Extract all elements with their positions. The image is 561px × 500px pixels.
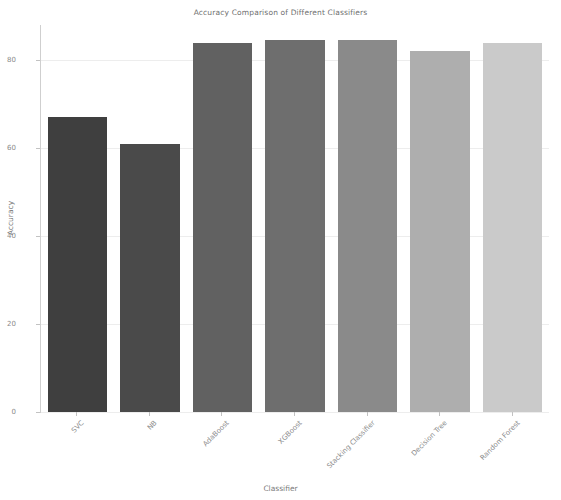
- y-tick-mark: [36, 60, 40, 61]
- x-tick-mark: [512, 412, 513, 416]
- x-tick-label: NB: [146, 419, 159, 432]
- y-tick-mark: [36, 412, 40, 413]
- y-tick-label: 60: [0, 144, 16, 152]
- x-tick-mark: [221, 412, 222, 416]
- bar-series: [41, 25, 549, 412]
- x-tick-label: SVC: [70, 419, 86, 435]
- x-tick-label: AdaBoost: [202, 419, 231, 448]
- gridline: [41, 412, 549, 413]
- x-tick-mark: [76, 412, 77, 416]
- x-tick-label: Random Forest: [478, 419, 521, 462]
- x-tick-mark: [439, 412, 440, 416]
- bar: [120, 144, 180, 412]
- bar: [48, 117, 108, 412]
- chart-title: Accuracy Comparison of Different Classif…: [0, 8, 561, 17]
- bar: [193, 43, 253, 412]
- x-tick-mark: [367, 412, 368, 416]
- y-axis-title: Accuracy: [6, 201, 15, 235]
- bar: [483, 43, 543, 412]
- x-tick-mark: [149, 412, 150, 416]
- y-tick-mark: [36, 148, 40, 149]
- bar-chart-figure: Accuracy Comparison of Different Classif…: [0, 0, 561, 500]
- bar: [410, 51, 470, 412]
- x-tick-label: Stacking Classifier: [325, 419, 376, 470]
- bar: [265, 40, 325, 412]
- y-tick-label: 0: [0, 408, 16, 416]
- y-tick-label: 80: [0, 56, 16, 64]
- x-tick-label: Decision Tree: [410, 419, 449, 458]
- y-tick-mark: [36, 324, 40, 325]
- y-tick-mark: [36, 236, 40, 237]
- x-tick-label: XGBoost: [277, 419, 304, 446]
- bar: [338, 40, 398, 412]
- x-axis-title: Classifier: [0, 484, 561, 493]
- x-tick-mark: [294, 412, 295, 416]
- y-tick-label: 20: [0, 320, 16, 328]
- plot-area: [40, 25, 549, 413]
